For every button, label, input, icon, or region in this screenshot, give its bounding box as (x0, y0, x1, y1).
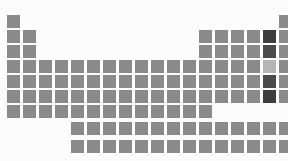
heatmap-cell (55, 60, 68, 73)
heatmap-cell (7, 105, 20, 118)
heatmap-cell-fblock (231, 122, 244, 135)
heatmap-cell-fblock (87, 122, 100, 135)
heatmap-cell (23, 75, 36, 88)
heatmap-cell (167, 90, 180, 103)
heatmap-cell-fblock (119, 122, 132, 135)
heatmap-cell (247, 60, 260, 73)
heatmap-cell-fblock (71, 122, 84, 135)
heatmap-cell-fblock (231, 140, 244, 153)
heatmap-cell-fblock (71, 140, 84, 153)
heatmap-cell-fblock (183, 140, 196, 153)
heatmap-cell (119, 105, 132, 118)
heatmap-cell (231, 30, 244, 43)
heatmap-cell (215, 75, 228, 88)
heatmap-cell (279, 30, 288, 43)
heatmap-cell (183, 60, 196, 73)
heatmap-cell (119, 90, 132, 103)
heatmap-cell (23, 60, 36, 73)
heatmap-cell-fblock (167, 140, 180, 153)
heatmap-cell-fblock (183, 122, 196, 135)
heatmap-cell-fblock (263, 140, 276, 153)
heatmap-cell (55, 90, 68, 103)
heatmap-cell (55, 105, 68, 118)
heatmap-cell (183, 90, 196, 103)
heatmap-cell-fblock (151, 122, 164, 135)
heatmap-cell (103, 105, 116, 118)
heatmap-cell (151, 105, 164, 118)
heatmap-cell (199, 30, 212, 43)
heatmap-cell (231, 90, 244, 103)
heatmap-cell (71, 105, 84, 118)
heatmap-cell (199, 105, 212, 118)
heatmap-cell-fblock (135, 122, 148, 135)
heatmap-cell (215, 30, 228, 43)
heatmap-cell (231, 75, 244, 88)
heatmap-cell (7, 60, 20, 73)
heatmap-cell-fblock (247, 140, 260, 153)
heatmap-cell (23, 30, 36, 43)
heatmap-cell-fblock (103, 122, 116, 135)
heatmap-cell (103, 90, 116, 103)
heatmap-cell-fblock (215, 122, 228, 135)
heatmap-cell (135, 75, 148, 88)
heatmap-cell (263, 90, 276, 103)
heatmap-cell-fblock (103, 140, 116, 153)
heatmap-cell (279, 45, 288, 58)
heatmap-cell (199, 90, 212, 103)
heatmap-cell (151, 60, 164, 73)
heatmap-cell (7, 90, 20, 103)
heatmap-cell (135, 60, 148, 73)
heatmap-cell (167, 60, 180, 73)
heatmap-cell (247, 90, 260, 103)
heatmap-cell (231, 45, 244, 58)
heatmap-cell (23, 90, 36, 103)
heatmap-cell (151, 75, 164, 88)
heatmap-cell (71, 90, 84, 103)
heatmap-cell (23, 45, 36, 58)
heatmap-cell (87, 75, 100, 88)
heatmap-cell-fblock (247, 122, 260, 135)
heatmap-cell (279, 90, 288, 103)
heatmap-cell (279, 75, 288, 88)
heatmap-cell (23, 105, 36, 118)
heatmap-cell-fblock (167, 122, 180, 135)
heatmap-cell (263, 60, 276, 73)
heatmap-cell (119, 75, 132, 88)
heatmap-cell-fblock (199, 122, 212, 135)
heatmap-cell-fblock (135, 140, 148, 153)
heatmap-cell (247, 45, 260, 58)
heatmap-cell-fblock (215, 140, 228, 153)
heatmap-cell (39, 90, 52, 103)
heatmap-cell (247, 30, 260, 43)
heatmap-cell (39, 105, 52, 118)
heatmap-cell (7, 15, 20, 28)
heatmap-cell (55, 75, 68, 88)
heatmap-cell (183, 75, 196, 88)
heatmap-cell (7, 30, 20, 43)
heatmap-cell-fblock (87, 140, 100, 153)
heatmap-cell (183, 105, 196, 118)
heatmap-cell-fblock (279, 122, 288, 135)
heatmap-cell-fblock (199, 140, 212, 153)
heatmap-cell-fblock (119, 140, 132, 153)
heatmap-cell (199, 45, 212, 58)
heatmap-cell (167, 105, 180, 118)
heatmap-cell (135, 90, 148, 103)
heatmap-cell (231, 60, 244, 73)
heatmap-cell (119, 60, 132, 73)
heatmap-cell (199, 60, 212, 73)
heatmap-cell-fblock (151, 140, 164, 153)
heatmap-cell (151, 90, 164, 103)
heatmap-cell (247, 75, 260, 88)
heatmap-cell (103, 75, 116, 88)
heatmap-cell (39, 60, 52, 73)
periodic-table-heatmap (0, 0, 288, 161)
heatmap-cell (71, 60, 84, 73)
heatmap-cell (7, 45, 20, 58)
heatmap-cell (87, 105, 100, 118)
heatmap-cell (215, 45, 228, 58)
heatmap-cell-fblock (279, 140, 288, 153)
heatmap-cell (215, 60, 228, 73)
heatmap-cell (279, 60, 288, 73)
heatmap-cell (135, 105, 148, 118)
